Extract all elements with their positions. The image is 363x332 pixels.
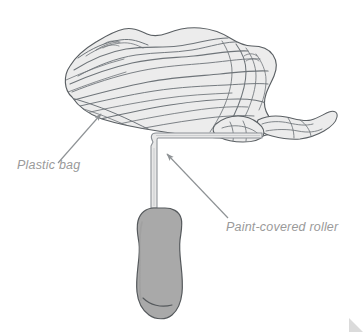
wire-frame-path — [151, 133, 262, 208]
roller-grip-handle — [137, 208, 183, 319]
corner-artifact — [349, 318, 363, 332]
plastic-bag-label: Plastic bag — [17, 159, 80, 172]
arrow-to-plastic-bag — [58, 114, 101, 163]
paint-covered-roller-label: Paint-covered roller — [226, 221, 338, 234]
roller-wire-frame — [151, 133, 262, 208]
illustration-figure: Plastic bag Paint-covered roller — [0, 0, 363, 332]
arrow-to-paint-roller — [167, 154, 228, 218]
handle-outline — [137, 208, 183, 319]
plastic-bag-shape — [64, 28, 337, 142]
